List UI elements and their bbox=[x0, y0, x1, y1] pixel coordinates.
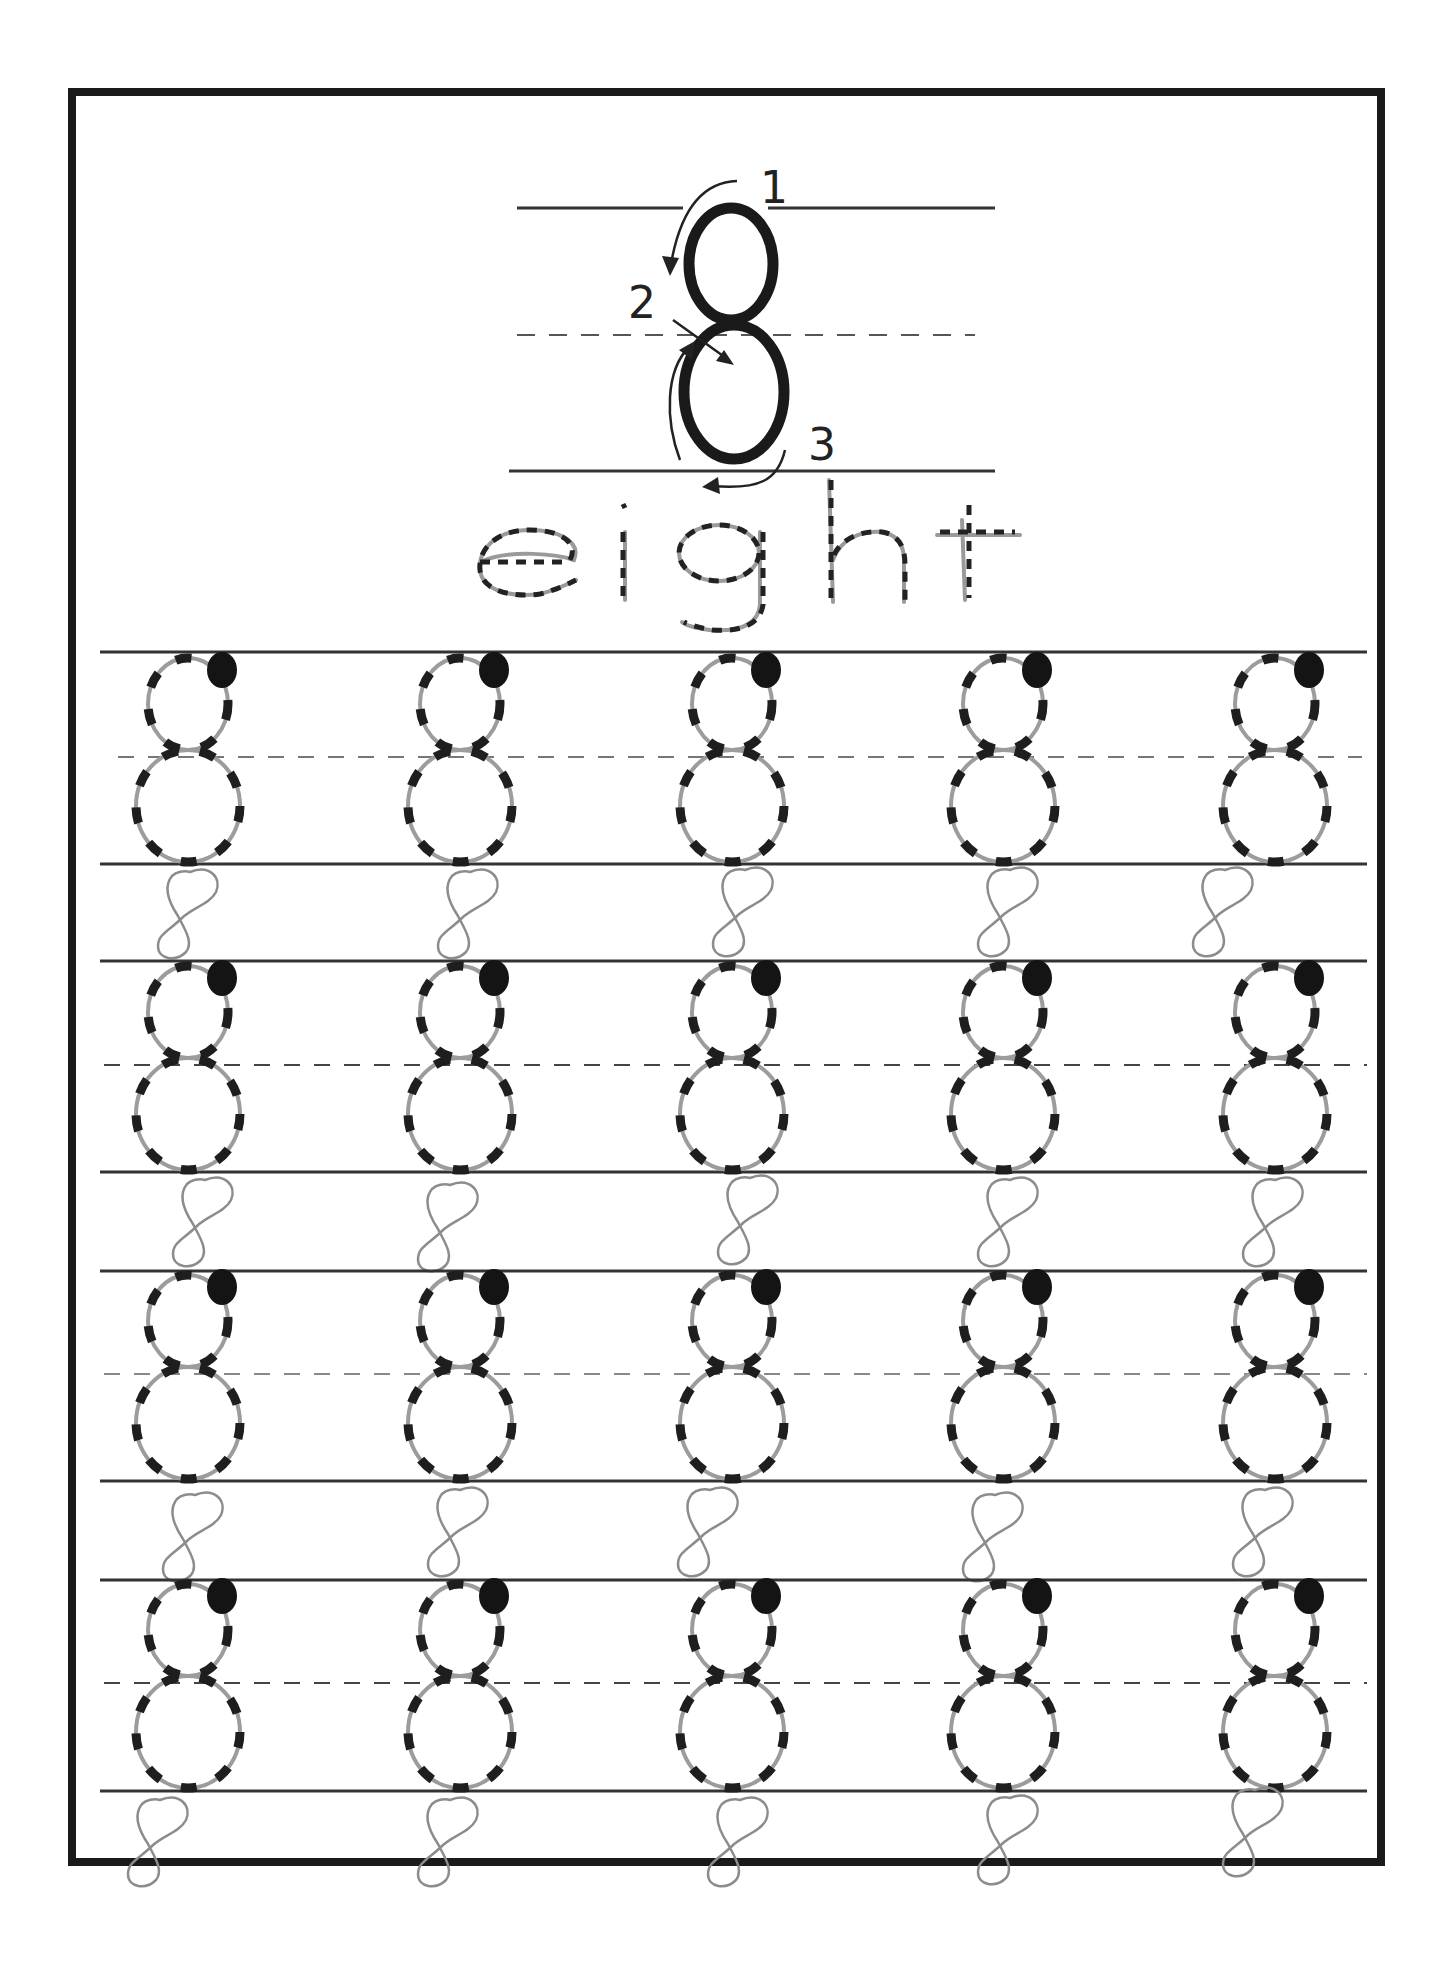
model-area: 1 2 3 bbox=[509, 162, 995, 494]
step-label-2: 2 bbox=[628, 277, 656, 328]
step-label-1: 1 bbox=[760, 162, 788, 213]
practice-row-2 bbox=[100, 960, 1367, 1271]
model-numeral-eight bbox=[684, 208, 784, 459]
practice-row-1 bbox=[100, 652, 1367, 958]
practice-grid bbox=[100, 652, 1367, 1886]
practice-row-3 bbox=[100, 1269, 1367, 1581]
worksheet: 1 2 3 eight bbox=[0, 0, 1450, 1964]
word-label: eight bbox=[0, 0, 3, 1]
step-label-3: 3 bbox=[808, 419, 836, 470]
practice-row-4 bbox=[100, 1578, 1367, 1886]
